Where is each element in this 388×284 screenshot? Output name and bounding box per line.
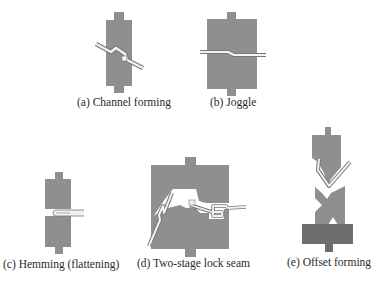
caption-channel-forming: (a) Channel forming: [77, 96, 171, 108]
press-brake-operations-diagram: [0, 0, 388, 284]
joggle-dies: [200, 12, 266, 96]
caption-joggle: (b) Joggle: [210, 96, 256, 108]
offset-forming-dies: [302, 127, 353, 252]
lock-seam-dies: [149, 157, 246, 257]
channel-forming-dies: [96, 12, 143, 93]
hemming-dies: [45, 172, 84, 254]
caption-lock-seam: (d) Two-stage lock seam: [137, 257, 250, 269]
caption-hemming: (c) Hemming (flattening): [3, 258, 119, 270]
caption-offset-forming: (e) Offset forming: [287, 256, 371, 268]
